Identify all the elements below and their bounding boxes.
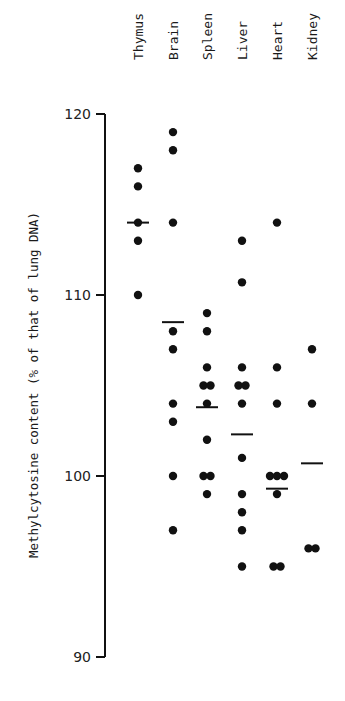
category-label-spleen: Spleen: [200, 13, 215, 60]
data-point: [203, 490, 211, 498]
data-point: [169, 345, 177, 353]
data-point: [169, 128, 177, 136]
y-tick-label: 120: [64, 106, 91, 122]
data-point: [169, 218, 177, 226]
mean-lines: [127, 223, 323, 489]
data-point: [203, 327, 211, 335]
data-point: [311, 544, 319, 552]
data-point: [241, 381, 249, 389]
category-label-thymus: Thymus: [131, 13, 146, 60]
data-point: [169, 146, 177, 154]
data-point: [169, 472, 177, 480]
data-point: [238, 399, 246, 407]
data-point: [203, 363, 211, 371]
data-point: [238, 562, 246, 570]
data-point: [169, 327, 177, 335]
data-point: [273, 218, 281, 226]
y-axis: 90100110120: [64, 106, 105, 665]
data-point: [280, 472, 288, 480]
data-points: [134, 128, 320, 571]
data-point: [134, 291, 142, 299]
data-point: [134, 237, 142, 245]
category-labels: ThymusBrainSpleenLiverHeartKidney: [131, 13, 320, 60]
chart-figure: 90100110120 Methylcytosine content (% of…: [0, 0, 345, 701]
data-point: [203, 309, 211, 317]
data-point: [238, 508, 246, 516]
y-tick-label: 100: [64, 468, 91, 484]
data-point: [276, 562, 284, 570]
category-label-liver: Liver: [235, 21, 250, 60]
data-point: [238, 490, 246, 498]
data-point: [273, 363, 281, 371]
data-point: [169, 399, 177, 407]
category-label-heart: Heart: [270, 21, 285, 60]
data-point: [273, 399, 281, 407]
data-point: [238, 454, 246, 462]
category-label-brain: Brain: [166, 21, 181, 60]
data-point: [308, 399, 316, 407]
data-point: [238, 526, 246, 534]
data-point: [169, 418, 177, 426]
data-point: [273, 490, 281, 498]
data-point: [238, 363, 246, 371]
data-point: [169, 526, 177, 534]
data-point: [238, 237, 246, 245]
y-axis-title: Methylcytosine content (% of that of lun…: [26, 212, 41, 558]
data-point: [206, 472, 214, 480]
y-tick-label: 110: [64, 287, 91, 303]
data-point: [134, 164, 142, 172]
category-label-kidney: Kidney: [305, 13, 320, 60]
y-axis-label: Methylcytosine content (% of that of lun…: [26, 212, 41, 558]
data-point: [203, 436, 211, 444]
data-point: [308, 345, 316, 353]
data-point: [134, 182, 142, 190]
data-point: [206, 381, 214, 389]
y-tick-label: 90: [73, 649, 91, 665]
data-point: [238, 278, 246, 286]
